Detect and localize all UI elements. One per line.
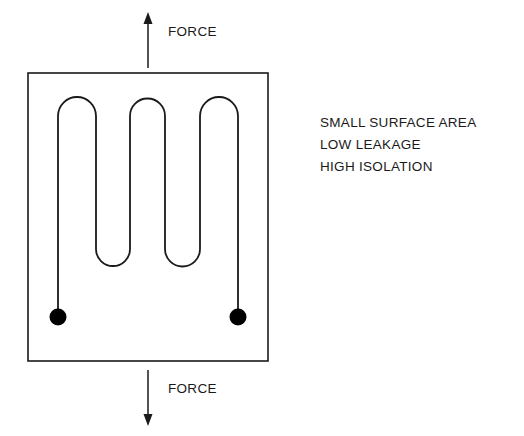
serpentine-trace-path — [58, 97, 238, 317]
property-line-3: HIGH ISOLATION — [320, 156, 476, 178]
properties-callout: SMALL SURFACE AREA LOW LEAKAGE HIGH ISOL… — [320, 112, 476, 178]
force-arrow-up-head — [144, 12, 153, 24]
force-arrow-up — [144, 12, 153, 68]
property-line-1: SMALL SURFACE AREA — [320, 112, 476, 134]
force-label-top: FORCE — [168, 24, 217, 39]
terminal-right-dot — [230, 309, 247, 326]
force-arrow-down-head — [144, 414, 153, 426]
force-arrow-down — [144, 370, 153, 426]
force-sensor-diagram — [0, 0, 524, 436]
terminal-left-dot — [50, 309, 67, 326]
force-label-bottom: FORCE — [168, 381, 217, 396]
diagram-canvas: FORCE FORCE SMALL SURFACE AREA LOW LEAKA… — [0, 0, 524, 436]
property-line-2: LOW LEAKAGE — [320, 134, 476, 156]
